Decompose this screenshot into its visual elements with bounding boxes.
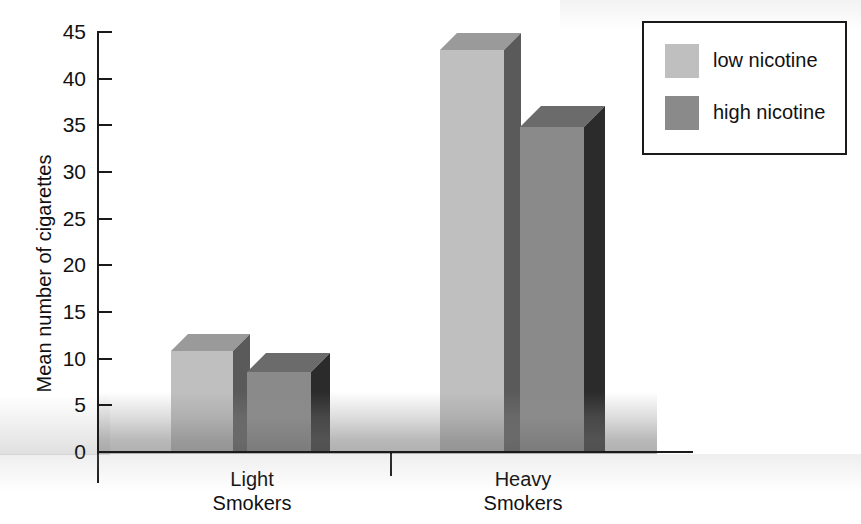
y-tick-10 [97, 358, 112, 360]
x-axis-line [97, 451, 693, 453]
legend-label-low-nicotine: low nicotine [713, 49, 818, 72]
bar-front-face [247, 372, 311, 452]
y-tick-label-45: 45 [46, 21, 86, 42]
y-tick-label-40: 40 [46, 68, 86, 89]
y-tick-25 [97, 218, 112, 220]
bar-heavy-high-nicotine [520, 106, 605, 452]
legend: low nicotine high nicotine [642, 21, 847, 155]
x-group-label-line1: Light [152, 468, 352, 492]
chart-canvas: 45 40 35 30 25 20 15 10 5 0 Mean number … [0, 0, 861, 524]
legend-swatch-high-nicotine [665, 96, 699, 130]
x-group-label-light-smokers: Light Smokers [152, 468, 352, 515]
y-axis-line [97, 31, 99, 483]
y-axis-title: Mean number of cigarettes [33, 119, 56, 429]
bar-side-face [584, 106, 605, 452]
x-group-label-heavy-smokers: Heavy Smokers [423, 468, 623, 515]
x-axis-group-separator-tick [390, 452, 392, 476]
bar-front-face [520, 127, 584, 452]
legend-swatch-low-nicotine [665, 44, 699, 78]
y-tick-40 [97, 78, 112, 80]
y-tick-30 [97, 171, 112, 173]
x-group-label-line1: Heavy [423, 468, 623, 492]
x-group-label-line2: Smokers [152, 492, 352, 516]
bar-front-face [171, 351, 233, 452]
x-group-label-line2: Smokers [423, 492, 623, 516]
bar-front-face [440, 50, 504, 452]
y-tick-label-0: 0 [46, 441, 86, 462]
bar-heavy-low-nicotine [440, 33, 521, 452]
bar-side-face [504, 33, 521, 452]
y-tick-0 [97, 451, 112, 453]
bar-light-high-nicotine [247, 353, 330, 452]
y-tick-15 [97, 311, 112, 313]
y-tick-5 [97, 404, 112, 406]
y-tick-45 [97, 31, 112, 33]
bar-light-low-nicotine [171, 334, 250, 452]
y-tick-35 [97, 124, 112, 126]
legend-label-high-nicotine: high nicotine [713, 101, 825, 124]
y-tick-20 [97, 264, 112, 266]
